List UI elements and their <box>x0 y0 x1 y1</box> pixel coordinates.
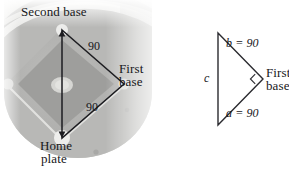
label-distance-upper: 90 <box>88 40 100 53</box>
label-second-base: Second base <box>21 5 87 19</box>
label-first-base-line2: base <box>119 75 143 89</box>
label-hypotenuse-c: c <box>204 72 209 85</box>
label-home-plate-line2: plate <box>41 152 67 166</box>
label-leg-a: a = 90 <box>226 107 259 120</box>
label-distance-lower: 90 <box>86 101 98 114</box>
ballpark-photo <box>0 0 170 171</box>
figure-container: Second base First base Home plate 90 90 … <box>0 0 289 171</box>
label-leg-b: b = 90 <box>226 37 259 50</box>
label-diagram-first-base-line2: base <box>266 79 289 93</box>
photo-panel: Second base First base Home plate 90 90 <box>0 0 170 171</box>
diagram-panel: b = 90 a = 90 c First base <box>170 0 289 171</box>
